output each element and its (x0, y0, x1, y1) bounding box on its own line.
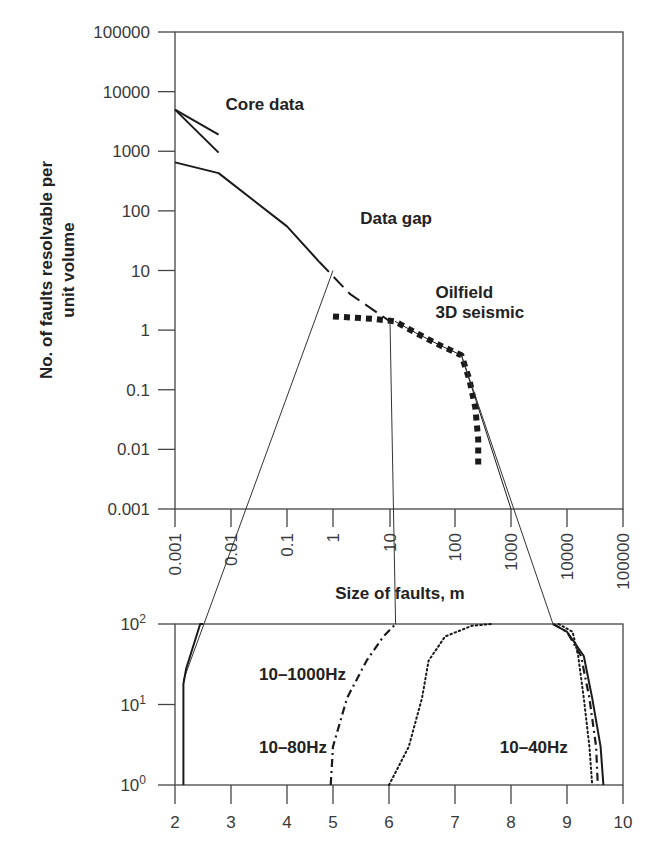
x-tick-label: 0.001 (166, 533, 185, 576)
annotation-label: 3D seismic (435, 303, 524, 322)
annotation-label: Data gap (360, 209, 432, 228)
upper-y-axis: 1000001000010001001010.10.010.001 (93, 23, 175, 519)
y-tick-label: 0.1 (126, 381, 150, 400)
y-tick-label: 0.001 (107, 500, 150, 519)
y-tick-label: 100 (122, 202, 150, 221)
y-tick-label: 101 (120, 693, 146, 715)
x-tick-label: 10 (614, 813, 633, 832)
x-tick-label: 8 (506, 813, 515, 832)
x-tick-label: 10 (381, 533, 400, 552)
annotation-label: 10–80Hz (259, 738, 327, 757)
connector-line (183, 271, 333, 681)
x-tick-label: 100 (446, 533, 465, 561)
annotation-label: Core data (226, 95, 305, 114)
annotation-label: 10–40Hz (500, 738, 568, 757)
lower-chart: 102101100 2345678910 10–1000Hz10–80Hz10–… (120, 612, 632, 832)
x-tick-label: 9 (562, 813, 571, 832)
y-axis-title-line-2: unit volume (59, 222, 78, 317)
annotation-label: 10–1000Hz (259, 665, 346, 684)
y-tick-label: 1 (141, 321, 150, 340)
series-line-data-gap-extrapolation (319, 262, 390, 322)
y-tick-label: 10 (131, 262, 150, 281)
y-tick-label: 100000 (93, 23, 150, 42)
lower-plot-frame (175, 624, 623, 785)
series-line-10-1000hz (183, 624, 203, 785)
upper-annotations: Core dataData gapOilfield3D seismic (226, 95, 525, 322)
x-tick-label: 100000 (614, 533, 633, 590)
lower-series-group (183, 624, 603, 785)
x-tick-label: 1000 (502, 533, 521, 571)
x-tick-label: 5 (328, 813, 337, 832)
lower-y-axis: 102101100 (120, 612, 175, 795)
x-tick-label: 7 (450, 813, 459, 832)
series-line-10-80hz (331, 624, 396, 785)
fault-resolution-chart: 1000001000010001001010.10.010.001 0.0010… (0, 0, 659, 856)
x-tick-label: 0.1 (278, 533, 297, 557)
y-tick-label: 102 (120, 612, 146, 634)
connector-line (390, 321, 396, 624)
y-tick-label: 0.01 (117, 440, 150, 459)
connector-line (461, 355, 553, 624)
annotation-label: Oilfield (435, 283, 493, 302)
series-line-oilfield-3d-seismic (333, 316, 478, 467)
x-tick-label: 2 (170, 813, 179, 832)
y-tick-label: 100 (120, 773, 146, 795)
y-tick-label: 1000 (112, 142, 150, 161)
x-tick-label: 10000 (558, 533, 577, 580)
upper-x-axis-title: Size of faults, m (335, 584, 464, 603)
x-tick-label: 3 (226, 813, 235, 832)
lower-x-axis: 2345678910 (170, 785, 632, 832)
series-line-right-dotted (559, 624, 593, 785)
y-tick-label: 10000 (103, 83, 150, 102)
x-tick-label: 4 (282, 813, 291, 832)
series-line-main-trend (175, 162, 319, 261)
series-line-10-40hz (389, 624, 491, 785)
upper-x-axis: 0.0010.010.1110100100010000100000 (166, 509, 633, 590)
x-tick-label: 6 (384, 813, 393, 832)
upper-chart: 1000001000010001001010.10.010.001 0.0010… (37, 23, 633, 603)
y-axis-title-line-1: No. of faults resolvable per (37, 161, 56, 380)
connector-lines (183, 271, 553, 681)
lower-annotations: 10–1000Hz10–80Hz10–40Hz (259, 665, 568, 757)
upper-y-axis-title: No. of faults resolvable per unit volume (37, 161, 78, 380)
x-tick-label: 1 (324, 533, 343, 542)
